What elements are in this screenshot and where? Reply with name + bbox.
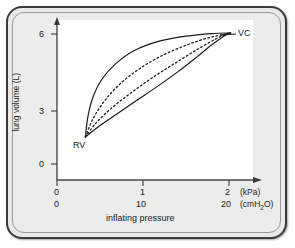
annotation-vc: VC: [238, 29, 251, 38]
x-axis-unit-cmh2o: (cmH2O): [240, 200, 273, 211]
y-tick-label-0: 0: [39, 160, 44, 169]
x-tick-label-kpa-1: 1: [140, 188, 145, 197]
x-tick-label-cmh2o-10: 10: [136, 200, 146, 209]
y-tick-label-3: 3: [39, 107, 44, 116]
unit-cmh2o-pre: (cmH: [240, 199, 260, 209]
x-tick-label-cmh2o-0: 0: [54, 200, 59, 209]
annotation-rv: RV: [73, 141, 85, 150]
x-tick-label-kpa-2: 2: [225, 188, 230, 197]
y-axis-label: lung volume (L): [12, 72, 21, 132]
y-tick-label-6: 6: [39, 30, 44, 39]
unit-cmh2o-post: O): [264, 199, 273, 209]
x-axis-arrow-icon: [253, 177, 262, 183]
x-tick-label-kpa-0: 0: [54, 188, 59, 197]
x-tick-label-cmh2o-20: 20: [221, 200, 231, 209]
plot-area-background: [57, 20, 253, 180]
x-axis-label: inflating pressure: [106, 214, 175, 223]
x-axis-unit-kpa: (kPa): [240, 188, 260, 197]
